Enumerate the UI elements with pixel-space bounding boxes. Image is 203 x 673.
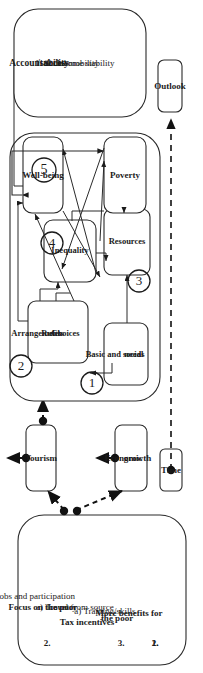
drivers-to-core-connectors <box>7 454 119 462</box>
policy-panel-outline <box>18 515 186 665</box>
tourism-box-shape <box>26 425 56 491</box>
outcomes-panel-outline <box>14 9 146 117</box>
time-to-outlook-connector <box>167 119 175 474</box>
policy-to-drivers-connectors <box>48 491 122 515</box>
diagram-canvas: 1. Tax incentives a) Travel from source … <box>0 0 203 673</box>
diagram-vector-layer <box>0 0 203 673</box>
outlook-box-shape <box>158 60 182 112</box>
basic-needs-box-shape <box>104 323 148 385</box>
tourism-to-growth-connector <box>39 399 47 425</box>
resources-box-shape <box>104 209 150 275</box>
figure-frame: 1. Tax incentives a) Travel from source … <box>0 0 203 673</box>
economic-growth-box-shape <box>115 425 147 491</box>
arrangements-box-shape <box>28 301 88 363</box>
poverty-box-shape <box>104 137 146 213</box>
wellbeing-box-shape <box>23 137 63 213</box>
